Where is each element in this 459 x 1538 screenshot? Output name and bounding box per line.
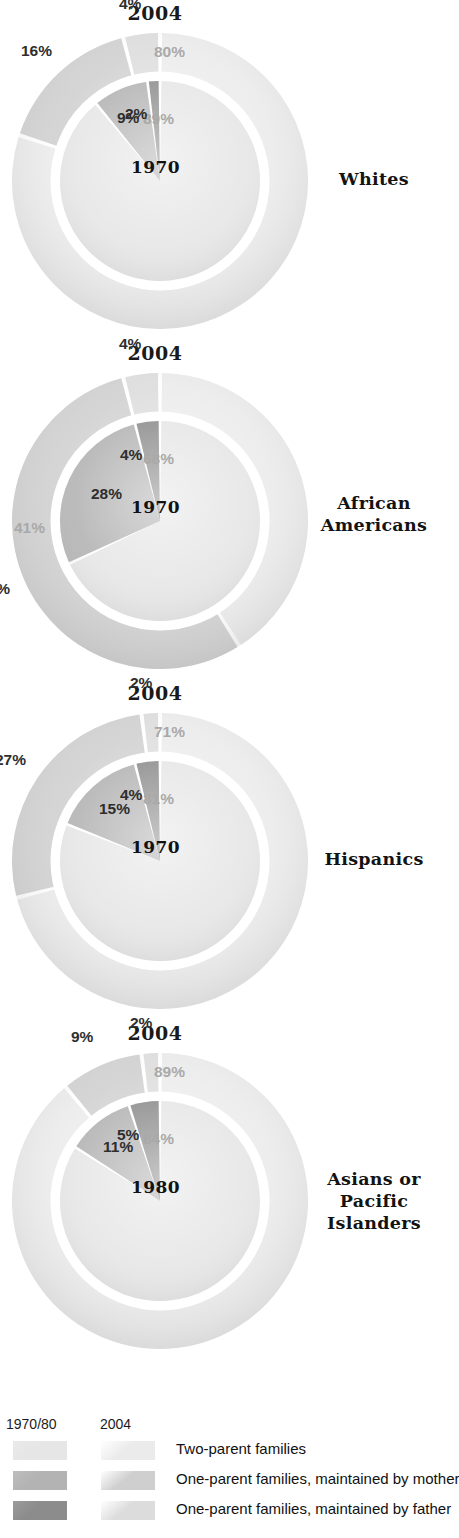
- outer-label-two-parent: 71%: [154, 723, 185, 741]
- outer-year-label: 2004: [0, 342, 310, 364]
- legend-swatch-old-father: [13, 1501, 67, 1520]
- donut-chart-1: [5, 366, 317, 678]
- inner-label-two-parent: 68%: [143, 450, 174, 468]
- outer-label-mother: 27%: [0, 751, 26, 769]
- legend-swatch-new-mother: [101, 1471, 155, 1490]
- donut-chart-collection: 2004Whites80%16%4%89%9%2%19702004African…: [0, 0, 452, 1360]
- legend-swatch-old-two-parent: [13, 1441, 67, 1460]
- legend-label-father: One-parent families, maintained by fathe…: [176, 1500, 451, 1517]
- donut-chart-0: [5, 26, 317, 338]
- inner-year-label: 1970: [131, 157, 180, 177]
- inner-year-label: 1970: [131, 497, 180, 517]
- outer-year-label: 2004: [0, 2, 310, 24]
- outer-label-two-parent: 80%: [154, 43, 185, 61]
- legend-header-new: 2004: [100, 1416, 131, 1432]
- inner-label-two-parent: 84%: [143, 1130, 174, 1148]
- outer-label-mother: 16%: [21, 42, 52, 60]
- chart-block: 2004Asians or Pacific Islanders89%9%2%84…: [0, 1020, 452, 1360]
- inner-label-father: 2%: [125, 105, 147, 123]
- inner-label-father: 4%: [120, 446, 142, 464]
- outer-label-mother: 9%: [71, 1028, 93, 1046]
- legend-header: 1970/80 2004: [0, 1416, 452, 1436]
- outer-year-label: 2004: [0, 1022, 310, 1044]
- legend-header-old: 1970/80: [6, 1416, 57, 1432]
- group-title: Asians or Pacific Islanders: [296, 1168, 452, 1234]
- inner-label-father: 4%: [120, 786, 142, 804]
- legend-row: One-parent families, maintained by mothe…: [0, 1466, 452, 1496]
- outer-label-father: 4%: [119, 335, 141, 353]
- group-title: Whites: [296, 168, 452, 190]
- legend-swatch-new-two-parent: [101, 1441, 155, 1460]
- inner-label-two-parent: 81%: [143, 790, 174, 808]
- chart-block: 2004Whites80%16%4%89%9%2%1970: [0, 0, 452, 340]
- legend-swatch-old-mother: [13, 1471, 67, 1490]
- legend-rows: Two-parent familiesOne-parent families, …: [0, 1436, 452, 1526]
- donut-chart-3: [5, 1046, 317, 1358]
- legend-label-two-parent: Two-parent families: [176, 1440, 306, 1457]
- outer-label-father: 4%: [119, 0, 141, 13]
- outer-label-two-parent: 89%: [154, 1063, 185, 1081]
- donut-chart-2: [5, 706, 317, 1018]
- inner-label-two-parent: 89%: [143, 110, 174, 128]
- outer-label-father: 2%: [130, 674, 152, 692]
- inner-year-label: 1970: [131, 837, 180, 857]
- group-title: African Americans: [296, 492, 452, 536]
- legend-row: Two-parent families: [0, 1436, 452, 1466]
- legend-label-mother: One-parent families, maintained by mothe…: [176, 1470, 459, 1487]
- legend-swatch-new-father: [101, 1501, 155, 1520]
- group-title: Hispanics: [296, 848, 452, 870]
- outer-year-label: 2004: [0, 682, 310, 704]
- outer-label-father: 2%: [130, 1014, 152, 1032]
- legend-row: One-parent families, maintained by fathe…: [0, 1496, 452, 1526]
- inner-label-father: 5%: [117, 1126, 139, 1144]
- chart-block: 2004Hispanics71%27%2%81%15%4%1970: [0, 680, 452, 1020]
- inner-year-label: 1980: [131, 1177, 180, 1197]
- inner-label-mother: 28%: [91, 485, 122, 503]
- legend: 1970/80 2004 Two-parent familiesOne-pare…: [0, 1416, 452, 1526]
- outer-label-mother: 55%: [0, 580, 10, 598]
- outer-label-two-parent: 41%: [14, 519, 45, 537]
- chart-block: 2004African Americans41%55%4%68%28%4%197…: [0, 340, 452, 680]
